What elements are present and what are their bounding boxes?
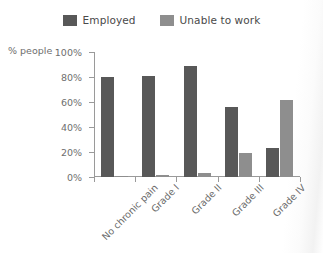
x-axis-label-cell: Grade III	[218, 180, 259, 250]
plot-area: 0%20%40%60%80%100%	[94, 52, 300, 177]
y-axis-tick-label: 40%	[61, 122, 82, 133]
bar	[225, 107, 238, 177]
legend-swatch-icon	[63, 15, 77, 26]
x-axis-labels: No chronic painGrade IGrade IIGrade IIIG…	[94, 180, 300, 250]
x-axis-tick	[300, 177, 301, 182]
y-axis-tick-label: 100%	[55, 47, 82, 58]
x-axis-label-cell: No chronic pain	[94, 180, 135, 250]
legend-label: Unable to work	[180, 14, 261, 26]
x-axis-label-cell: Grade II	[176, 180, 217, 250]
bar	[280, 100, 293, 178]
legend-item-employed: Employed	[63, 14, 136, 26]
y-axis-tick-label: 20%	[61, 147, 82, 158]
bar	[115, 176, 128, 177]
legend-item-unable-to-work: Unable to work	[160, 14, 261, 26]
y-axis-tick-label: 60%	[61, 97, 82, 108]
bar-group	[176, 52, 217, 177]
x-axis-label: Grade IV	[271, 182, 308, 219]
bar	[184, 66, 197, 177]
x-axis-label-cell: Grade I	[135, 180, 176, 250]
bar	[239, 153, 252, 177]
bar	[198, 173, 211, 177]
chart-legend: Employed Unable to work	[0, 14, 323, 26]
y-axis-title: % people	[8, 45, 52, 56]
x-axis-label-cell: Grade IV	[259, 180, 300, 250]
bar-group	[218, 52, 259, 177]
bar	[156, 175, 169, 178]
bar	[142, 76, 155, 177]
bar-group	[135, 52, 176, 177]
bar-groups	[94, 52, 300, 177]
chart-container: Employed Unable to work % people 0%20%40…	[0, 0, 323, 253]
bar-group	[259, 52, 300, 177]
legend-swatch-icon	[160, 15, 174, 26]
y-axis-tick-label: 0%	[67, 172, 82, 183]
bar	[101, 77, 114, 177]
bar	[266, 148, 279, 177]
legend-label: Employed	[83, 14, 136, 26]
y-axis-tick-label: 80%	[61, 72, 82, 83]
bar-group	[94, 52, 135, 177]
